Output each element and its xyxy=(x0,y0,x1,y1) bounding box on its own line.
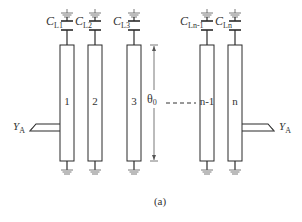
column-n: n CLn xyxy=(215,9,242,174)
column-n-minus-1: n-1 CLn-1 xyxy=(180,9,214,174)
feed-right: YA xyxy=(242,120,291,135)
ground-icon xyxy=(201,9,213,17)
resonator-array-diagram: 1 CL1 2 CL2 xyxy=(0,0,302,222)
ground-icon xyxy=(229,9,241,17)
column-label: n-1 xyxy=(200,95,215,107)
feed-left: YA xyxy=(13,120,60,135)
column-1: 1 CL1 xyxy=(46,9,74,174)
capacitor-label: CL2 xyxy=(75,14,92,30)
column-label: 2 xyxy=(92,95,98,107)
figure-caption: (a) xyxy=(154,195,167,208)
dimension-label: θ0 xyxy=(147,92,157,107)
capacitor-label: CL1 xyxy=(46,14,63,30)
ground-icon xyxy=(61,9,73,17)
arrow-up-icon xyxy=(152,46,156,51)
arrow-down-icon xyxy=(152,155,156,160)
feed-label: YA xyxy=(279,120,291,135)
capacitor-label: CL3 xyxy=(113,14,130,30)
ground-icon xyxy=(128,9,140,17)
ground-icon xyxy=(229,170,241,174)
column-3: 3 CL3 xyxy=(113,9,141,174)
column-label: 1 xyxy=(64,95,70,107)
capacitor-label: CLn xyxy=(215,14,232,30)
column-label: 3 xyxy=(131,95,137,107)
capacitor-label: CLn-1 xyxy=(180,14,204,30)
ground-icon xyxy=(89,9,101,17)
dimension-arrow: θ0 xyxy=(147,45,158,161)
feed-label: YA xyxy=(13,120,25,135)
column-2: 2 CL2 xyxy=(75,9,102,174)
column-label: n xyxy=(232,95,238,107)
ground-icon xyxy=(128,170,140,174)
ground-icon xyxy=(89,170,101,174)
ground-icon xyxy=(61,170,73,174)
ground-icon xyxy=(201,170,213,174)
